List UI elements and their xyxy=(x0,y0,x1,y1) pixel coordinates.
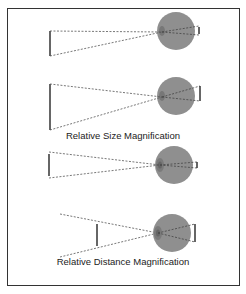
ray-top xyxy=(50,84,162,97)
ray-top-extended xyxy=(60,214,158,233)
lens xyxy=(159,91,165,101)
ray-bottom xyxy=(50,97,162,130)
panel-distance-near: Relative Distance Magnification xyxy=(57,214,195,267)
ray-top xyxy=(49,152,160,165)
panel-size-large: Relative Size Magnification xyxy=(50,77,200,141)
ray-bottom xyxy=(49,165,160,178)
ray-bottom xyxy=(50,32,162,56)
ray-top xyxy=(50,31,162,32)
panel-distance-far xyxy=(49,146,197,184)
caption-size: Relative Size Magnification xyxy=(66,130,180,141)
caption-distance: Relative Distance Magnification xyxy=(57,256,190,267)
ray-bottom-extended xyxy=(60,233,158,257)
lens xyxy=(159,26,165,36)
panel-size-small xyxy=(50,12,199,56)
magnification-diagram: Relative Size Magnification Relative Dis… xyxy=(0,0,246,294)
